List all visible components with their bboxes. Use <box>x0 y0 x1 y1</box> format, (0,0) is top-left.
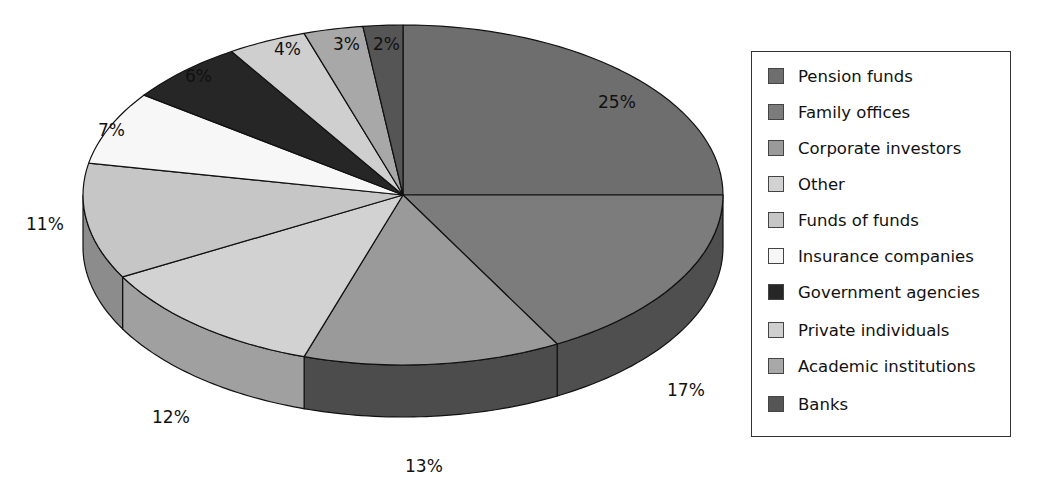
legend-swatch <box>768 104 784 120</box>
pie-top <box>83 25 723 365</box>
legend-swatch <box>768 322 784 338</box>
legend-swatch <box>768 68 784 84</box>
legend-label: Academic institutions <box>798 357 976 376</box>
legend-item-corporate-investors: Corporate investors <box>768 136 961 160</box>
pie-chart: 25%17%13%12%11%7%6%4%3%2% <box>0 0 740 500</box>
legend-swatch <box>768 358 784 374</box>
slice-percent-label: 7% <box>98 120 125 140</box>
legend-label: Pension funds <box>798 67 913 86</box>
slice-percent-label: 12% <box>152 407 190 427</box>
legend-item-other: Other <box>768 172 845 196</box>
legend-swatch <box>768 284 784 300</box>
legend: Pension fundsFamily officesCorporate inv… <box>751 51 1011 437</box>
legend-swatch <box>768 176 784 192</box>
legend-swatch <box>768 140 784 156</box>
slice-percent-label: 13% <box>405 456 443 476</box>
legend-item-banks: Banks <box>768 392 848 416</box>
legend-label: Insurance companies <box>798 247 974 266</box>
legend-item-private-individuals: Private individuals <box>768 318 949 342</box>
legend-swatch <box>768 212 784 228</box>
legend-item-funds-of-funds: Funds of funds <box>768 208 919 232</box>
slice-pension-funds <box>403 25 723 195</box>
legend-item-family-offices: Family offices <box>768 100 910 124</box>
legend-label: Private individuals <box>798 321 949 340</box>
slice-percent-label: 3% <box>333 34 360 54</box>
slice-percent-label: 2% <box>373 34 400 54</box>
legend-label: Government agencies <box>798 283 980 302</box>
slice-percent-label: 17% <box>667 380 705 400</box>
slice-percent-label: 6% <box>185 66 212 86</box>
legend-swatch <box>768 248 784 264</box>
legend-label: Funds of funds <box>798 211 919 230</box>
legend-item-insurance-companies: Insurance companies <box>768 244 974 268</box>
legend-label: Other <box>798 175 845 194</box>
slice-percent-label: 4% <box>274 39 301 59</box>
legend-item-academic-institutions: Academic institutions <box>768 354 976 378</box>
legend-item-government-agencies: Government agencies <box>768 280 980 304</box>
legend-label: Corporate investors <box>798 139 961 158</box>
legend-item-pension-funds: Pension funds <box>768 64 913 88</box>
slice-percent-label: 25% <box>598 92 636 112</box>
legend-label: Family offices <box>798 103 910 122</box>
slice-percent-label: 11% <box>26 214 64 234</box>
legend-swatch <box>768 396 784 412</box>
legend-label: Banks <box>798 395 848 414</box>
